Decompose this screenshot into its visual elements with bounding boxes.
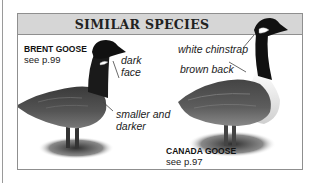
canada-goose-image bbox=[178, 18, 288, 157]
canada-annotation-brown-back: brown back bbox=[180, 63, 234, 75]
brent-annotation-dark: dark bbox=[121, 54, 141, 66]
brent-goose-name: BRENT GOOSE bbox=[24, 44, 87, 54]
brent-annotation-darker: darker bbox=[116, 120, 146, 132]
brent-annotation-face: face bbox=[121, 66, 141, 78]
page-margin-rule bbox=[2, 0, 3, 183]
brent-goose-page-ref: see p.99 bbox=[24, 54, 60, 65]
canada-goose-page-ref: see p.97 bbox=[166, 156, 202, 167]
canada-goose-name: CANADA GOOSE bbox=[166, 146, 236, 156]
geese-illustration bbox=[18, 14, 303, 170]
similar-species-panel: SIMILAR SPECIES bbox=[17, 13, 303, 170]
brent-annotation-smaller: smaller and bbox=[116, 108, 170, 120]
canada-annotation-chinstrap: white chinstrap bbox=[178, 43, 248, 55]
